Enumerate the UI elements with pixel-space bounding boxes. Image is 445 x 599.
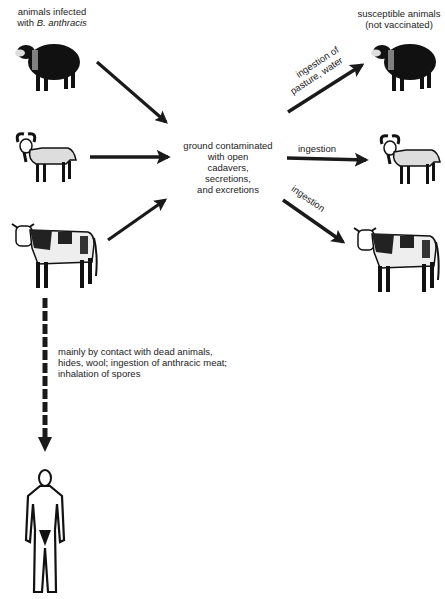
infected-cow-icon — [8, 218, 100, 290]
arrow-sheep-to-ground — [97, 62, 166, 122]
hub-line-3: cadavers, — [176, 162, 280, 173]
arrow-cow-to-ground — [108, 200, 165, 240]
dashed-arrowhead — [38, 437, 52, 452]
infected-goat-icon — [12, 128, 78, 186]
target-title-line2: (not vaccinated) — [354, 19, 444, 30]
edge-label-goat: ingestion — [298, 143, 336, 154]
contaminated-ground-node: ground contaminated with open cadavers, … — [176, 140, 280, 195]
pathogen-name: B. anthracis — [37, 17, 87, 28]
human-icon — [22, 468, 68, 596]
susceptible-goat-icon — [376, 130, 442, 188]
infected-sheep-icon — [12, 38, 84, 93]
susceptible-sheep-icon — [368, 38, 440, 93]
hub-line-5: and excretions — [176, 184, 280, 195]
hub-line-4: secretions, — [176, 173, 280, 184]
human-route-label: mainly by contact with dead animals, hid… — [58, 346, 258, 379]
source-title-line2: with B. anthracis — [12, 17, 92, 28]
target-group-title: susceptible animals (not vaccinated) — [354, 8, 444, 30]
source-group-title: animals infected with B. anthracis — [12, 6, 92, 28]
hub-line-2: with open — [176, 151, 280, 162]
susceptible-cow-icon — [350, 222, 442, 294]
human-route-line-1: mainly by contact with dead animals, — [58, 346, 258, 357]
source-title-prefix: with — [17, 17, 37, 28]
hub-line-1: ground contaminated — [176, 140, 280, 151]
source-title-line1: animals infected — [12, 6, 92, 17]
target-title-line1: susceptible animals — [354, 8, 444, 19]
human-route-line-2: hides, wool; ingestion of anthracic meat… — [58, 357, 258, 368]
human-route-line-3: inhalation of spores — [58, 368, 258, 379]
arrow-ground-to-goat — [287, 158, 366, 160]
